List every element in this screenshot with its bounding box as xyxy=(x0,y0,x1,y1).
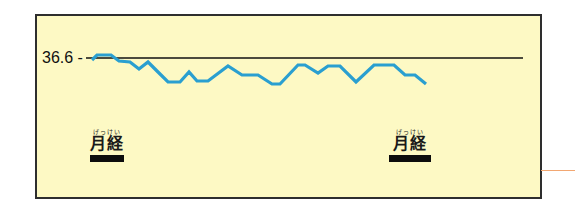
temperature-line xyxy=(92,55,426,84)
period-marker-1: げっけい 月経 xyxy=(85,128,129,162)
period-bar xyxy=(90,155,124,162)
plot-area xyxy=(0,0,575,208)
period-label: 月経 xyxy=(85,135,129,152)
reference-value-label: 36.6 - xyxy=(42,49,83,67)
chart-figure: 36.6 - げっけい 月経 げっけい 月経 xyxy=(0,0,575,208)
period-marker-2: げっけい 月経 xyxy=(388,128,432,162)
period-bar xyxy=(389,155,431,162)
period-label: 月経 xyxy=(388,135,432,152)
